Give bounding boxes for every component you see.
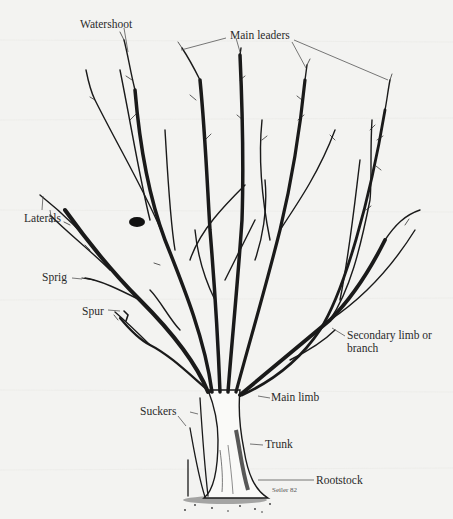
label-laterals: Laterals [24, 212, 62, 224]
spur-shape [124, 311, 128, 321]
tree-diagram: Watershoot Main leaders Laterals Sprig S… [0, 0, 453, 519]
trunk [204, 390, 268, 498]
label-sprig: Sprig [42, 271, 67, 284]
label-suckers: Suckers [140, 405, 177, 417]
main-limbs [65, 55, 385, 395]
label-secondary-limb-1: Secondary limb or [347, 329, 432, 342]
label-watershoot: Watershoot [80, 18, 133, 30]
label-trunk: Trunk [265, 438, 293, 450]
label-main-limb: Main limb [271, 391, 319, 403]
nest [129, 217, 145, 227]
label-spur: Spur [82, 305, 104, 318]
suckers-shape [188, 398, 208, 497]
label-main-leaders: Main leaders [230, 29, 290, 41]
label-secondary-limb-2: branch [347, 342, 379, 354]
artist-signature: Seiler 82 [272, 486, 298, 494]
tree-illustration: Watershoot Main leaders Laterals Sprig S… [0, 0, 453, 519]
label-rootstock: Rootstock [316, 474, 363, 486]
